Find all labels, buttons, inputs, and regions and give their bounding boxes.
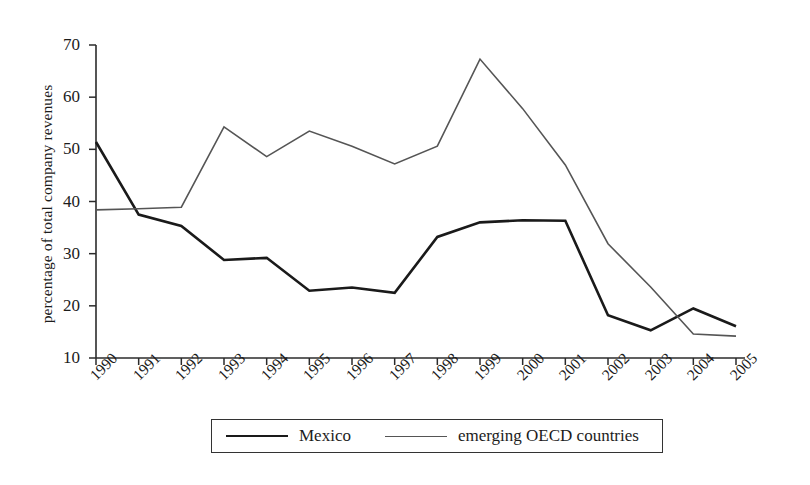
series-line-mexico: [96, 142, 736, 330]
legend: Mexicoemerging OECD countries: [211, 419, 663, 453]
y-tick-label: 70: [38, 36, 80, 53]
line-chart-figure: percentage of total company revenues 706…: [0, 0, 810, 485]
y-tick-label: 10: [38, 349, 80, 366]
legend-label: emerging OECD countries: [458, 426, 639, 446]
y-tick-label: 40: [38, 193, 80, 210]
legend-row: Mexicoemerging OECD countries: [212, 420, 662, 452]
axes-group: [89, 45, 745, 365]
y-tick-label: 20: [38, 297, 80, 314]
legend-entry-mexico[interactable]: Mexico: [226, 426, 351, 446]
legend-entry-oecd[interactable]: emerging OECD countries: [385, 426, 639, 446]
legend-line-swatch-icon: [385, 436, 447, 437]
y-tick-label: 50: [38, 140, 80, 157]
legend-label: Mexico: [299, 426, 351, 446]
plot-area: [0, 0, 810, 485]
legend-line-swatch-icon: [226, 435, 288, 437]
series-line-oecd: [96, 59, 736, 336]
y-tick-label: 60: [38, 88, 80, 105]
data-series-group: [96, 59, 736, 336]
y-tick-label: 30: [38, 245, 80, 262]
